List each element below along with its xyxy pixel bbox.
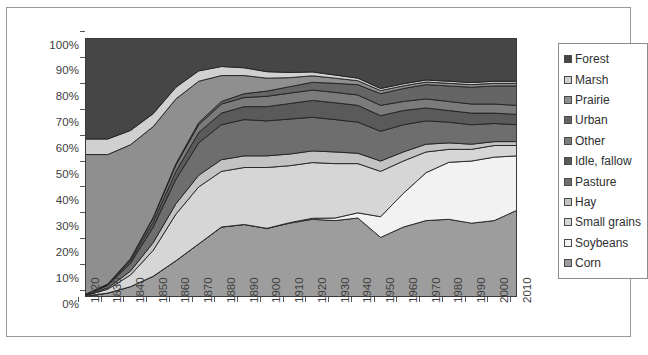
legend-swatch-icon	[564, 55, 572, 63]
x-tick-label: 1960	[408, 277, 419, 303]
legend-label: Other	[575, 135, 605, 147]
x-tick-label: 2000	[499, 277, 510, 303]
x-tick-mark	[442, 297, 443, 302]
legend-item[interactable]: Forest	[564, 49, 641, 69]
x-tick-mark	[328, 297, 329, 302]
x-tick-label: 1950	[385, 277, 396, 303]
legend-item[interactable]: Other	[564, 131, 641, 151]
x-tick-label: 1820	[90, 277, 101, 303]
y-tick-mark	[80, 238, 85, 239]
legend-item[interactable]: Marsh	[564, 69, 641, 89]
y-tick-label: 80%	[23, 91, 79, 102]
y-tick-mark	[80, 31, 85, 32]
area-bands	[85, 38, 517, 297]
x-tick-mark	[465, 297, 466, 302]
y-tick-mark	[80, 264, 85, 265]
y-tick-mark	[80, 161, 85, 162]
legend-swatch-icon	[564, 137, 572, 145]
y-tick-label: 20%	[23, 247, 79, 258]
legend-swatch-icon	[564, 239, 572, 247]
y-tick-label: 10%	[23, 273, 79, 284]
y-tick-label: 60%	[23, 143, 79, 154]
legend-label: Idle, fallow	[575, 155, 632, 167]
plot-area	[85, 38, 517, 297]
y-tick-mark	[80, 212, 85, 213]
y-tick-label: 0%	[23, 299, 79, 310]
legend-item[interactable]: Hay	[564, 192, 641, 212]
x-tick-label: 1890	[249, 277, 260, 303]
legend-swatch-icon	[564, 198, 572, 206]
x-tick-label: 2010	[522, 277, 533, 303]
legend-label: Small grains	[575, 216, 641, 228]
x-tick-label: 1880	[226, 277, 237, 303]
legend-label: Prairie	[575, 94, 610, 106]
legend-item[interactable]: Pasture	[564, 171, 641, 191]
y-tick-label: 50%	[23, 169, 79, 180]
x-tick-label: 1900	[271, 277, 282, 303]
legend-swatch-icon	[564, 178, 572, 186]
y-tick-mark	[80, 186, 85, 187]
x-tick-label: 1830	[112, 277, 123, 303]
x-tick-mark	[305, 297, 306, 302]
x-tick-mark	[396, 297, 397, 302]
y-tick-label: 90%	[23, 65, 79, 76]
x-tick-label: 1920	[317, 277, 328, 303]
y-tick-mark	[80, 83, 85, 84]
x-tick-label: 1860	[180, 277, 191, 303]
y-tick-label: 40%	[23, 195, 79, 206]
y-tick-label: 100%	[23, 40, 79, 51]
y-tick-label: 70%	[23, 117, 79, 128]
legend-label: Soybeans	[575, 237, 628, 249]
legend-item[interactable]: Corn	[564, 253, 641, 273]
legend-label: Forest	[575, 53, 609, 65]
legend-swatch-icon	[564, 259, 572, 267]
x-tick-mark	[101, 297, 102, 302]
x-tick-label: 1910	[294, 277, 305, 303]
x-tick-label: 1990	[476, 277, 487, 303]
legend-item[interactable]: Soybeans	[564, 233, 641, 253]
x-tick-mark	[169, 297, 170, 302]
x-tick-mark	[192, 297, 193, 302]
legend-swatch-icon	[564, 116, 572, 124]
y-tick-mark	[80, 290, 85, 291]
legend-label: Hay	[575, 196, 596, 208]
legend-list: ForestMarshPrairieUrbanOtherIdle, fallow…	[564, 49, 641, 273]
y-tick-label: 30%	[23, 221, 79, 232]
y-tick-mark	[80, 57, 85, 58]
x-tick-mark	[260, 297, 261, 302]
x-tick-mark	[487, 297, 488, 302]
y-tick-mark	[80, 109, 85, 110]
x-tick-label: 1850	[158, 277, 169, 303]
x-tick-label: 1980	[453, 277, 464, 303]
legend-swatch-icon	[564, 76, 572, 84]
x-tick-mark	[374, 297, 375, 302]
x-tick-mark	[146, 297, 147, 302]
legend-item[interactable]: Urban	[564, 110, 641, 130]
legend-label: Urban	[575, 114, 608, 126]
legend-swatch-icon	[564, 96, 572, 104]
chart-legend: ForestMarshPrairieUrbanOtherIdle, fallow…	[558, 43, 648, 279]
legend-item[interactable]: Small grains	[564, 212, 641, 232]
legend-item[interactable]: Idle, fallow	[564, 151, 641, 171]
x-tick-mark	[214, 297, 215, 302]
legend-item[interactable]: Prairie	[564, 90, 641, 110]
y-tick-mark	[80, 135, 85, 136]
x-tick-label: 1940	[362, 277, 373, 303]
x-tick-mark	[351, 297, 352, 302]
figure-caption	[8, 344, 308, 355]
x-tick-label: 1970	[431, 277, 442, 303]
legend-swatch-icon	[564, 157, 572, 165]
y-axis-labels: 0%10%20%30%40%50%60%70%80%90%100%	[23, 30, 79, 305]
x-tick-mark	[283, 297, 284, 302]
stacked-area-plot	[85, 38, 517, 297]
x-tick-mark	[123, 297, 124, 302]
legend-label: Corn	[575, 257, 601, 269]
legend-label: Pasture	[575, 176, 616, 188]
x-tick-mark	[419, 297, 420, 302]
x-tick-label: 1840	[135, 277, 146, 303]
x-tick-mark	[237, 297, 238, 302]
x-tick-mark	[78, 297, 79, 302]
x-tick-mark	[510, 297, 511, 302]
x-tick-label: 1870	[203, 277, 214, 303]
